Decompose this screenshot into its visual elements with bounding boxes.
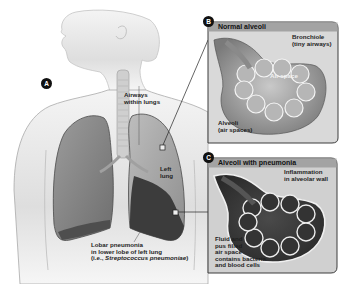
panel-c-title: Alveoli with pneumonia <box>218 159 296 166</box>
inflammation-label: Inflammation in alveolar wall <box>284 169 328 182</box>
lobar-line3: (i.e., Streptococcus pneumoniae) <box>91 255 188 262</box>
airways-label: Airways within lungs <box>124 92 160 105</box>
marker-b: B <box>203 16 214 27</box>
trachea <box>117 70 129 158</box>
air-space-label: Air space <box>270 73 298 80</box>
panel-b-title: Normal alveoli <box>218 23 266 30</box>
marker-a: A <box>41 78 52 89</box>
head <box>61 10 159 92</box>
left-lung-label: Left lung <box>160 166 173 179</box>
bronchiole-label: Bronchiole (tiny airways) <box>292 34 332 47</box>
pneumonia-diagram: A B C Normal alveoli Alveoli with pneumo… <box>0 0 347 284</box>
marker-c: C <box>203 152 214 163</box>
lobar-pneumonia-label: Lobar pneumonia in lower lobe of left lu… <box>91 242 188 262</box>
fluid-pus-label: Fluid and pus filled air space contains … <box>215 236 266 269</box>
alveoli-label: Alveoli (air spaces) <box>218 120 252 133</box>
